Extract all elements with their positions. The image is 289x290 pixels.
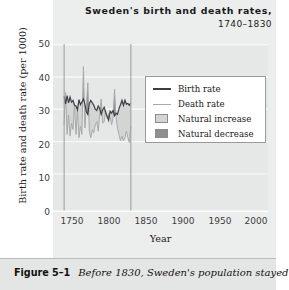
chart-title: Sweden's birth and death rates, 1740–183… (60, 4, 272, 31)
ytick-40: 40 (24, 73, 50, 83)
xtick-2000: 2000 (238, 216, 274, 226)
figure-number: Figure 5–1 (14, 267, 70, 278)
figure-caption-band: Figure 5–1 Before 1830, Sweden's populat… (0, 258, 276, 290)
figure-caption-text: Before 1830, Sweden's population stayed (78, 267, 288, 278)
legend-label-natural-decrease: Natural decrease (178, 129, 254, 139)
x-axis-label: Year (53, 233, 268, 244)
legend-swatch-line-dark (152, 84, 172, 94)
xtick-1900: 1900 (165, 216, 201, 226)
ytick-20: 20 (24, 140, 50, 150)
xtick-1850: 1850 (128, 216, 164, 226)
chart-legend: Birth rate Death rate Natural increase N… (145, 76, 266, 143)
legend-swatch-box-increase (152, 114, 172, 124)
legend-swatch-box-decrease (152, 129, 172, 139)
legend-item-death-rate: Death rate (152, 96, 265, 111)
y-axis-label: Birth rate and death rate (per 1000) (17, 26, 28, 206)
legend-label-natural-increase: Natural increase (178, 114, 251, 124)
xtick-1950: 1950 (202, 216, 238, 226)
ytick-0: 0 (24, 207, 50, 217)
legend-label-birth-rate: Birth rate (178, 84, 221, 94)
chart-title-line1: Sweden's birth and death rates, (85, 5, 272, 16)
legend-item-natural-decrease: Natural decrease (152, 126, 265, 141)
chart-card: Sweden's birth and death rates, 1740–183… (0, 0, 276, 258)
ytick-30: 30 (24, 106, 50, 116)
chart-title-line2: 1740–1830 (60, 18, 272, 32)
legend-item-birth-rate: Birth rate (152, 81, 265, 96)
ytick-10: 10 (24, 173, 50, 183)
xtick-1750: 1750 (54, 216, 90, 226)
ytick-50: 50 (24, 39, 50, 49)
legend-label-death-rate: Death rate (178, 99, 225, 109)
legend-swatch-line-light (152, 99, 172, 109)
legend-item-natural-increase: Natural increase (152, 111, 265, 126)
xtick-1800: 1800 (91, 216, 127, 226)
figure-caption: Figure 5–1 Before 1830, Sweden's populat… (14, 267, 288, 278)
